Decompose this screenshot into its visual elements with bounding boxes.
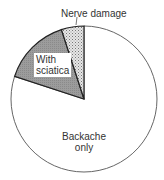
label-backache-line1: Backache <box>62 131 106 142</box>
label-backache-only: Backache only <box>62 131 106 153</box>
pie-chart <box>0 0 164 180</box>
label-sciatica-line2: sciatica <box>36 65 69 76</box>
label-nerve-damage: Nerve damage <box>61 8 127 19</box>
label-with-sciatica: With sciatica <box>34 53 71 77</box>
label-sciatica-line1: With <box>36 54 69 65</box>
label-backache-line2: only <box>62 142 106 153</box>
